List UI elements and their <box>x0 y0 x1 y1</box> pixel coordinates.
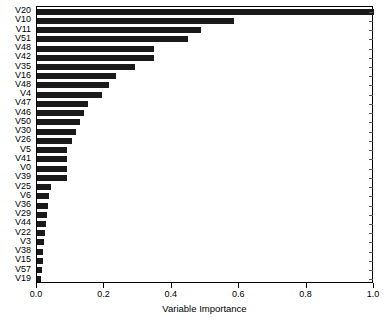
plot-area <box>36 6 373 283</box>
y-tick-label: V39 <box>15 172 31 181</box>
bar-v30-13 <box>37 129 76 135</box>
x-tick-label: 0.4 <box>165 289 178 300</box>
right-axis-tick <box>369 122 373 123</box>
bar-v41-16 <box>37 156 67 162</box>
right-axis-tick <box>369 270 373 271</box>
bar-v29-22 <box>37 212 47 218</box>
bar-v35-6 <box>37 64 135 70</box>
bar-row <box>37 193 374 199</box>
bar-v25-19 <box>37 184 51 190</box>
x-tick-major <box>171 283 172 288</box>
bar-v16-7 <box>37 73 116 79</box>
right-axis-tick <box>369 113 373 114</box>
right-axis-tick <box>369 206 373 207</box>
bar-v50-12 <box>37 119 80 125</box>
bar-row <box>37 36 374 42</box>
right-axis-tick <box>369 104 373 105</box>
bar-row <box>37 203 374 209</box>
bar-v47-10 <box>37 101 88 107</box>
bar-v48-4 <box>37 46 154 52</box>
bar-row <box>37 184 374 190</box>
x-axis-tick-labels: 0.00.20.40.60.81.0 <box>36 289 373 301</box>
x-tick-major <box>36 283 37 288</box>
right-axis-tick <box>369 150 373 151</box>
bar-v46-11 <box>37 110 84 116</box>
y-tick-label: V42 <box>15 52 31 61</box>
bar-v19-29 <box>37 276 41 282</box>
x-tick-label: 0.0 <box>30 289 43 300</box>
right-axis-tick <box>369 12 373 13</box>
variable-importance-chart: V20V10V11V51V48V42V35V16V48V4V47V46V50V3… <box>0 0 388 323</box>
bar-row <box>37 55 374 61</box>
right-axis-tick <box>369 49 373 50</box>
right-axis-tick <box>369 233 373 234</box>
right-axis-tick <box>369 252 373 253</box>
right-axis-tick <box>369 132 373 133</box>
right-axis-tick <box>369 76 373 77</box>
bar-row <box>37 129 374 135</box>
bar-row <box>37 147 374 153</box>
bar-row <box>37 92 374 98</box>
right-axis-tick <box>369 279 373 280</box>
right-axis-tick <box>369 67 373 68</box>
bar-row <box>37 73 374 79</box>
bar-row <box>37 166 374 172</box>
x-tick-major <box>373 283 374 288</box>
bar-v22-24 <box>37 230 45 236</box>
bar-row <box>37 101 374 107</box>
bar-v57-28 <box>37 267 42 273</box>
bar-row <box>37 138 374 144</box>
right-axis-tick <box>369 224 373 225</box>
bar-v51-3 <box>37 36 188 42</box>
right-axis-tick <box>369 196 373 197</box>
bar-v36-21 <box>37 203 48 209</box>
right-axis-tick <box>369 242 373 243</box>
x-tick-major <box>103 283 104 288</box>
bar-v5-15 <box>37 147 67 153</box>
bar-v38-26 <box>37 249 43 255</box>
bar-row <box>37 258 374 264</box>
x-tick-label: 0.6 <box>232 289 245 300</box>
x-axis-ticks <box>36 283 373 288</box>
right-axis-tick <box>369 159 373 160</box>
right-axis-tick <box>369 187 373 188</box>
bar-row <box>37 249 374 255</box>
right-axis-tick <box>369 30 373 31</box>
right-axis-tick <box>369 261 373 262</box>
y-tick-label: V10 <box>15 15 31 24</box>
bar-row <box>37 119 374 125</box>
x-tick-label: 1.0 <box>367 289 380 300</box>
x-tick-label: 0.8 <box>299 289 312 300</box>
bar-v4-9 <box>37 92 102 98</box>
right-axis-tick <box>369 21 373 22</box>
bar-row <box>37 276 374 282</box>
bar-v6-20 <box>37 193 49 199</box>
y-axis-labels: V20V10V11V51V48V42V35V16V48V4V47V46V50V3… <box>0 6 33 283</box>
bar-v10-1 <box>37 18 234 24</box>
bar-row <box>37 267 374 273</box>
bar-row <box>37 9 374 15</box>
y-tick-label: V19 <box>15 274 31 283</box>
right-axis-tick <box>369 169 373 170</box>
bar-row <box>37 230 374 236</box>
right-axis-tick <box>369 85 373 86</box>
bar-v26-14 <box>37 138 72 144</box>
right-axis-tick <box>369 95 373 96</box>
bar-v20-0 <box>37 9 374 15</box>
bar-row <box>37 212 374 218</box>
bar-v3-25 <box>37 239 44 245</box>
bar-v0-17 <box>37 166 67 172</box>
bar-row <box>37 46 374 52</box>
x-tick-label: 0.2 <box>97 289 110 300</box>
bar-row <box>37 221 374 227</box>
bar-v15-27 <box>37 258 43 264</box>
bar-row <box>37 175 374 181</box>
bar-v44-23 <box>37 221 46 227</box>
bars-layer <box>37 7 372 282</box>
x-axis-title: Variable Importance <box>36 303 373 314</box>
right-axis-tick <box>369 178 373 179</box>
bar-v39-18 <box>37 175 67 181</box>
bar-row <box>37 64 374 70</box>
bar-row <box>37 239 374 245</box>
right-axis-tick <box>369 58 373 59</box>
